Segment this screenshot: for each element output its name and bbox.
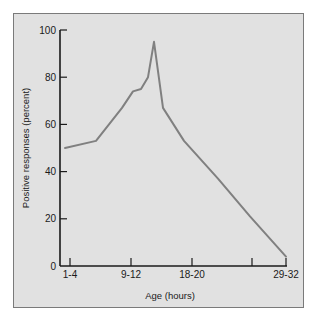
x-tick-label: 29-32 — [273, 269, 299, 280]
y-tick-label: 80 — [45, 72, 57, 83]
y-tick-label: 60 — [45, 119, 57, 130]
series-line — [65, 42, 286, 257]
y-tick-label: 100 — [39, 25, 56, 36]
data-series — [65, 42, 286, 257]
y-tick-label: 40 — [45, 166, 57, 177]
line-chart: 020406080100 1-49-1218-2029-32 Age (hour… — [0, 0, 317, 323]
x-tick-label: 18-20 — [179, 269, 205, 280]
x-tick-label: 1-4 — [63, 269, 78, 280]
y-tick-label: 20 — [45, 213, 57, 224]
x-tick-label: 9-12 — [121, 269, 141, 280]
x-axis: 1-49-1218-2029-32 — [60, 258, 299, 280]
y-axis: 020406080100 — [39, 25, 67, 272]
x-axis-title: Age (hours) — [145, 290, 195, 301]
y-axis-title: Positive responses (percent) — [20, 88, 31, 208]
y-tick-label: 0 — [50, 261, 56, 272]
